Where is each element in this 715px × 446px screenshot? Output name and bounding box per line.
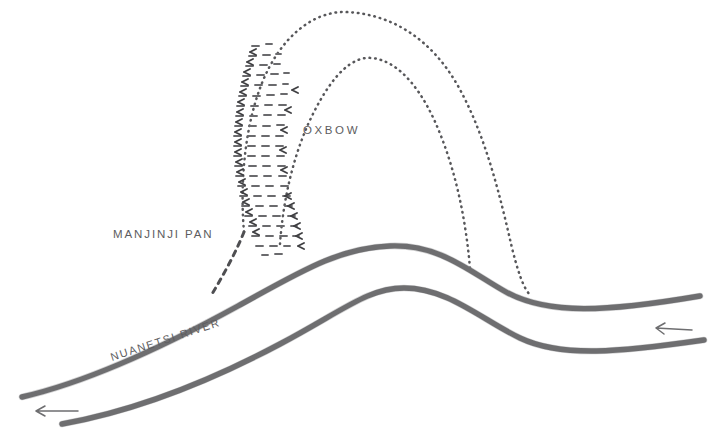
map-canvas: MANJINJI PAN OXBOW NUANETSI RIVER xyxy=(0,0,715,446)
label-manjinji-pan: MANJINJI PAN xyxy=(113,228,214,240)
label-oxbow: OXBOW xyxy=(303,124,360,136)
sketch-map-figure: MANJINJI PAN OXBOW NUANETSI RIVER xyxy=(0,0,715,446)
map-background xyxy=(0,0,715,446)
